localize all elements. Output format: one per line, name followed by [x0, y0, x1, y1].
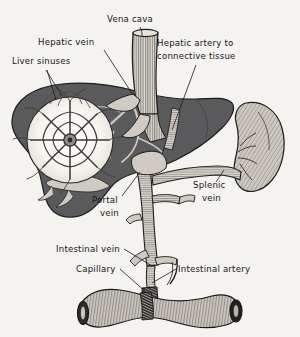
label-capillary: Capillary [76, 264, 116, 274]
label-hepatic-vein: Hepatic vein [38, 37, 94, 47]
label-intestinal-vein: Intestinal vein [56, 244, 120, 254]
label-splenic-vein-line2: vein [202, 193, 221, 203]
label-splenic-vein-line1: Splenic [193, 180, 226, 190]
label-liver-sinuses: Liver sinuses [12, 56, 71, 66]
label-vena-cava: Vena cava [107, 14, 153, 24]
label-hepatic-artery-line2: connective tissue [157, 51, 236, 61]
label-intestinal-artery: Intestinal artery [178, 264, 250, 274]
anatomical-diagram: Vena cava Hepatic vein Liver sinuses Hep… [0, 0, 300, 337]
label-portal-vein-line1: Portal [92, 195, 118, 205]
label-hepatic-artery-line1: Hepatic artery to [157, 38, 234, 48]
label-portal-vein-line2: vein [100, 208, 119, 218]
